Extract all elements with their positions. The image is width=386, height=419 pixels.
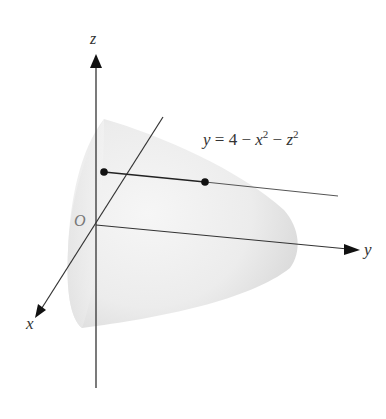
eq-minus: − [268,130,286,149]
y-axis-arrow-icon [344,244,360,255]
eq-equals: = 4 − [211,130,256,149]
eq-exp2: 2 [293,128,299,140]
point-2 [201,178,209,186]
paraboloid-diagram [0,0,386,419]
origin-label: O [74,212,86,230]
eq-z: z [286,130,293,149]
x-axis-label: x [26,314,34,334]
x-axis-arrow-icon [35,304,46,318]
surface-equation: y = 4 − x2 − z2 [203,128,299,150]
point-1 [100,168,108,176]
z-axis-arrow-icon [90,54,102,68]
y-axis-label: y [364,240,372,260]
z-axis-label: z [90,30,96,48]
eq-x: x [255,130,263,149]
eq-lhs: y [203,130,211,149]
